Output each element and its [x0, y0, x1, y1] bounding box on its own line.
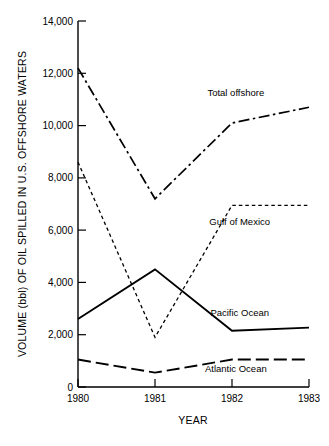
- series-line-atlantic-ocean: [78, 360, 309, 373]
- y-axis-title: VOLUME (bbl) OF OIL SPILLED IN U.S. OFFS…: [16, 51, 28, 357]
- x-tick-label-1983: 1983: [298, 393, 321, 404]
- x-tick-label-1980: 1980: [67, 393, 90, 404]
- series-line-pacific-ocean: [78, 269, 309, 330]
- x-tick-marks: [78, 379, 309, 387]
- series-label-atlantic-ocean: Atlantic Ocean: [205, 363, 267, 374]
- y-tick-label-6000: 6,000: [48, 225, 73, 236]
- chart-canvas: 14,000 12,000 10,000 8,000 6,000 4,000 2…: [0, 0, 329, 446]
- x-tick-label-1982: 1982: [221, 393, 244, 404]
- x-tick-label-1981: 1981: [144, 393, 167, 404]
- y-tick-label-10000: 10,000: [42, 120, 73, 131]
- x-axis-title: YEAR: [178, 414, 208, 426]
- y-tick-label-4000: 4,000: [48, 277, 73, 288]
- y-tick-label-0: 0: [67, 382, 73, 393]
- series-label-pacific-ocean: Pacific Ocean: [210, 307, 269, 318]
- y-tick-label-14000: 14,000: [42, 16, 73, 27]
- y-tick-label-12000: 12,000: [42, 68, 73, 79]
- series-line-gulf-of-mexico: [78, 162, 309, 337]
- series-label-total-offshore: Total offshore: [207, 87, 264, 98]
- y-tick-label-2000: 2,000: [48, 329, 73, 340]
- series-label-gulf-of-mexico: Gulf of Mexico: [209, 216, 270, 227]
- series-line-total-offshore: [78, 68, 309, 199]
- oil-spill-line-chart: 14,000 12,000 10,000 8,000 6,000 4,000 2…: [0, 0, 329, 446]
- y-tick-label-8000: 8,000: [48, 172, 73, 183]
